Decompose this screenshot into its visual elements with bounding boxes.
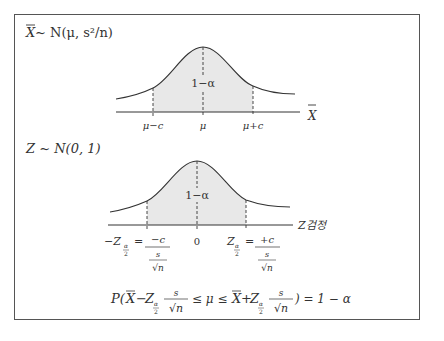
svg-text:P(: P( (110, 291, 126, 306)
zero-tick: 0 (194, 236, 200, 247)
svg-text:s: s (156, 250, 160, 259)
svg-text:α: α (124, 242, 128, 249)
top-area-label: 1−α (191, 77, 215, 90)
svg-text:√n: √n (169, 302, 183, 315)
svg-text:2: 2 (124, 250, 128, 257)
tick-mu: μ (200, 120, 207, 131)
bottom-area-label: 1−α (185, 189, 209, 202)
bottom-axis-label: Z검정 (297, 219, 328, 232)
tick-mu-plus-c: μ+c (243, 120, 264, 131)
svg-text:α: α (259, 300, 263, 307)
confidence-interval-formula: P( X − Z α 2 s √n ≤ μ ≤ X + Z α 2 s √n )… (110, 288, 351, 315)
svg-text:√n: √n (274, 302, 288, 315)
neg-c-numerator: −c (151, 234, 165, 245)
bottom-panel: Z ~ N(0, 1) 1−α Z검정 −Z α 2 = −c s √n 0 Z… (25, 141, 328, 273)
bottom-title: Z ~ N(0, 1) (25, 141, 101, 156)
svg-text:) = 1 − α: ) = 1 − α (294, 292, 351, 306)
svg-text:s: s (265, 250, 269, 259)
svg-text:2: 2 (259, 308, 263, 315)
svg-text:α: α (235, 242, 239, 249)
top-axis-label: X (307, 109, 317, 123)
svg-text:√n: √n (152, 263, 164, 273)
neg-z-label: −Z (104, 235, 121, 248)
svg-text:s: s (279, 288, 284, 298)
svg-text:=: = (245, 235, 254, 248)
svg-text:2: 2 (154, 308, 158, 315)
tick-mu-minus-c: μ−c (143, 120, 164, 131)
svg-text:√n: √n (261, 263, 273, 273)
svg-text:=: = (134, 235, 143, 248)
top-title: ~ N(μ, s²/n) (35, 25, 113, 40)
svg-text:2: 2 (235, 250, 239, 257)
pos-c-numerator: +c (260, 234, 274, 245)
svg-text:≤ μ ≤: ≤ μ ≤ (192, 292, 228, 306)
svg-text:s: s (174, 288, 179, 298)
svg-text:α: α (154, 300, 158, 307)
top-panel: X ~ N(μ, s²/n) 1−α μ−c μ μ+c X (25, 25, 317, 131)
svg-text:X: X (125, 291, 136, 306)
pos-z-label: Z (226, 235, 235, 248)
confidence-interval-diagram: X ~ N(μ, s²/n) 1−α μ−c μ μ+c X Z ~ N(0, … (0, 0, 444, 341)
